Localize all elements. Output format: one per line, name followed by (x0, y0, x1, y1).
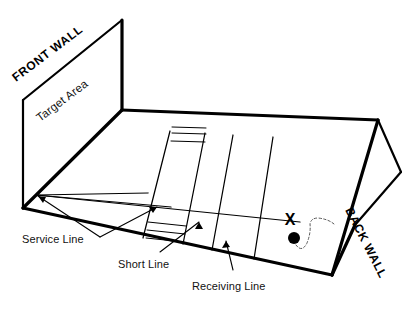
ball-dot (288, 232, 300, 244)
back-wall-label: BACK WALL (342, 205, 390, 280)
service-line-label: Service Line (22, 233, 84, 245)
player-position-marker: X (285, 211, 296, 228)
short-line-label: Short Line (118, 258, 169, 270)
receiving-line-label: Receiving Line (192, 280, 266, 292)
court-diagram-svg: X FRONT WALL Target Area BACK WALL Servi… (0, 0, 417, 312)
court-diagram: X FRONT WALL Target Area BACK WALL Servi… (0, 0, 417, 312)
